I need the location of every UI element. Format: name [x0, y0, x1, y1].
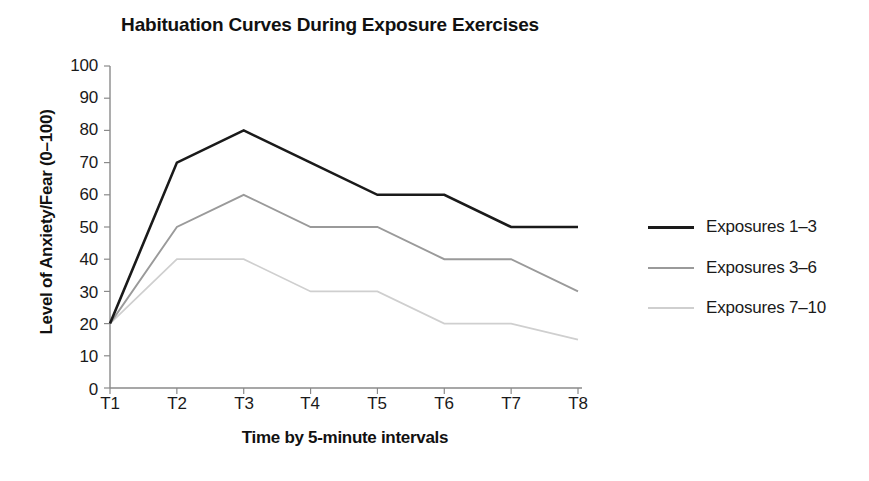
plot-area	[0, 0, 869, 481]
legend-swatch-icon	[648, 267, 694, 269]
series-line	[110, 259, 578, 340]
legend-item-exposures-3-6[interactable]: Exposures 3–6	[648, 256, 817, 280]
legend-item-exposures-1-3[interactable]: Exposures 1–3	[648, 215, 817, 239]
legend-swatch-icon	[648, 307, 694, 309]
legend-item-exposures-7-10[interactable]: Exposures 7–10	[648, 296, 826, 320]
y-tick-marks	[104, 66, 110, 388]
chart-figure: Habituation Curves During Exposure Exerc…	[0, 0, 869, 481]
series-lines	[110, 130, 578, 339]
legend-swatch-icon	[648, 226, 694, 229]
x-tick-marks	[110, 388, 578, 394]
legend-label: Exposures 3–6	[706, 258, 817, 278]
legend-label: Exposures 7–10	[706, 298, 826, 318]
legend-label: Exposures 1–3	[706, 217, 817, 237]
